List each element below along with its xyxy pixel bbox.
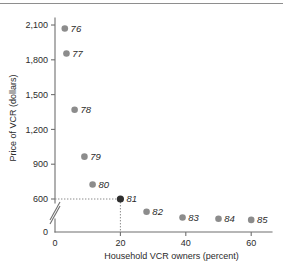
y-tick-label-0: 0 bbox=[43, 227, 48, 237]
data-point-label-82: 82 bbox=[152, 206, 163, 217]
data-point-label-83: 83 bbox=[188, 212, 199, 223]
data-point-85[interactable] bbox=[248, 217, 255, 224]
data-point-label-85: 85 bbox=[257, 214, 268, 225]
x-axis-title: Household VCR owners (percent) bbox=[104, 251, 239, 261]
data-point-label-84: 84 bbox=[224, 213, 235, 224]
tick-labels-group: 06009001,2001,5001,8002,1000204060 bbox=[25, 20, 256, 248]
y-axis-break-slash-1 bbox=[50, 202, 60, 220]
y-tick-label-1800: 1,800 bbox=[25, 55, 48, 65]
data-point-label-80: 80 bbox=[98, 179, 109, 190]
x-tick-label-60: 60 bbox=[246, 238, 256, 248]
data-point-label-81: 81 bbox=[127, 193, 138, 204]
y-tick-label-1200: 1,200 bbox=[25, 125, 48, 135]
y-tick-label-2100: 2,100 bbox=[25, 20, 48, 30]
data-point-label-77: 77 bbox=[72, 48, 83, 59]
y-tick-label-900: 900 bbox=[33, 159, 48, 169]
data-point-78[interactable] bbox=[71, 106, 78, 113]
x-tick-label-0: 0 bbox=[52, 238, 57, 248]
data-point-79[interactable] bbox=[81, 153, 88, 160]
data-point-84[interactable] bbox=[215, 215, 222, 222]
guides-group bbox=[55, 199, 120, 232]
y-tick-label-600: 600 bbox=[33, 194, 48, 204]
data-point-label-78: 78 bbox=[80, 104, 91, 115]
points-group: 76777879808182838485 bbox=[62, 23, 269, 225]
data-point-81[interactable] bbox=[117, 195, 124, 202]
y-tick-label-1500: 1,500 bbox=[25, 90, 48, 100]
data-point-80[interactable] bbox=[89, 181, 96, 188]
x-tick-label-40: 40 bbox=[181, 238, 191, 248]
x-tick-label-20: 20 bbox=[115, 238, 125, 248]
data-point-76[interactable] bbox=[62, 25, 69, 32]
data-point-label-76: 76 bbox=[71, 23, 82, 34]
y-axis-title: Price of VCR (dollars) bbox=[8, 74, 18, 161]
axes-group bbox=[50, 18, 272, 236]
data-point-83[interactable] bbox=[179, 214, 186, 221]
data-point-label-79: 79 bbox=[90, 151, 101, 162]
data-point-77[interactable] bbox=[63, 50, 70, 57]
data-point-82[interactable] bbox=[143, 208, 150, 215]
plot-canvas: 76777879808182838485 06009001,2001,5001,… bbox=[0, 0, 283, 273]
scatter-chart: 76777879808182838485 06009001,2001,5001,… bbox=[0, 0, 283, 273]
